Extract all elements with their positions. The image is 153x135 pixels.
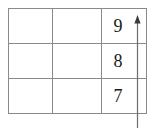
grid-cell-r0c0: [9, 9, 53, 44]
grid-cell-value-8: 8: [102, 52, 146, 70]
grid-cell-r0c1: [53, 9, 102, 44]
grid-cell-value-7: 7: [102, 87, 146, 105]
table-row: 8: [9, 44, 147, 79]
grid-figure: 9 8: [0, 0, 153, 135]
grid-cell-r1c2: 8: [102, 44, 147, 79]
grid-table: 9 8: [8, 8, 147, 114]
grid-cell-value-9: 9: [102, 17, 146, 35]
grid-cell-r1c1: [53, 44, 102, 79]
grid-cell-r2c1: [53, 79, 102, 114]
table-row: 7: [9, 79, 147, 114]
table-row: 9: [9, 9, 147, 44]
grid-cell-r2c0: [9, 79, 53, 114]
grid-cell-r0c2: 9: [102, 9, 147, 44]
grid-table-body: 9 8: [9, 9, 147, 114]
grid-cell-r2c2: 7: [102, 79, 147, 114]
grid-cell-r1c0: [9, 44, 53, 79]
